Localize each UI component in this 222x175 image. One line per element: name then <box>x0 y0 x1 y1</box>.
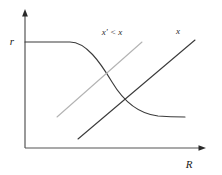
supply-line-low-x <box>57 42 142 117</box>
y-axis-arrowhead <box>22 9 28 17</box>
supply-line-low-x-label: x' < x <box>101 27 123 37</box>
x-axis-label: R <box>185 158 193 170</box>
y-axis-label: r <box>10 35 15 47</box>
supply-line-high-x <box>78 40 195 139</box>
x-axis-arrowhead <box>199 145 207 151</box>
diagram-canvas: r R x' < x x <box>0 0 222 175</box>
figure-container: r R x' < x x <box>0 0 222 175</box>
demand-curve <box>25 42 185 117</box>
supply-line-high-x-label: x <box>175 26 180 36</box>
